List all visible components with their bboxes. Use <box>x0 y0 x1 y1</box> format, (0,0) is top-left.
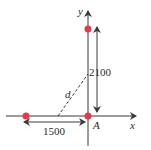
point-a-label: A <box>92 119 100 131</box>
x-axis-label: x <box>129 119 135 131</box>
vertical-dimension-label: 2100 <box>89 66 112 78</box>
y-axis-label: y <box>77 5 83 17</box>
top-point <box>85 26 92 33</box>
left-point <box>23 113 30 120</box>
diagonal-distance-line <box>58 74 88 116</box>
horizontal-dimension-label: 1500 <box>43 125 66 137</box>
diagonal-distance-label: d <box>65 88 71 100</box>
origin-point <box>85 113 92 120</box>
distance-diagram: y x A 2100 1500 d <box>0 0 151 150</box>
